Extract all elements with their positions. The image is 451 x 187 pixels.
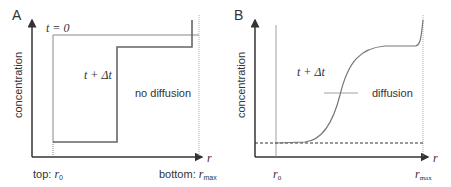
x-left-label: r0 [273,167,282,182]
t-dt-label: t + Δt [297,65,325,79]
x-right-label: bottom: rmax [159,167,217,181]
x-axis-label: r [433,151,438,165]
annotation: diffusion [372,87,413,99]
x-axis-label: r [207,151,212,165]
t0-label: t = 0 [46,21,69,35]
annotation: no diffusion [135,87,191,99]
x-right-label: rmax [415,167,432,182]
panel-b: B r concentration t + Δt diffusion r0 rm… [234,7,438,182]
panel-b-label: B [234,7,243,23]
y-axis-label: concentration [235,52,247,118]
curve-t-plus-dt [53,20,192,142]
panel-a: A r concentration t = 0 t + Δt no diffus… [12,7,217,181]
x-left-label: top: r0 [33,167,63,181]
y-axis-label: concentration [12,52,24,118]
panel-a-label: A [12,7,22,23]
t-dt-label: t + Δt [84,68,112,82]
diagram-canvas: A r concentration t = 0 t + Δt no diffus… [0,0,451,187]
curve-t-plus-dt [276,20,423,143]
